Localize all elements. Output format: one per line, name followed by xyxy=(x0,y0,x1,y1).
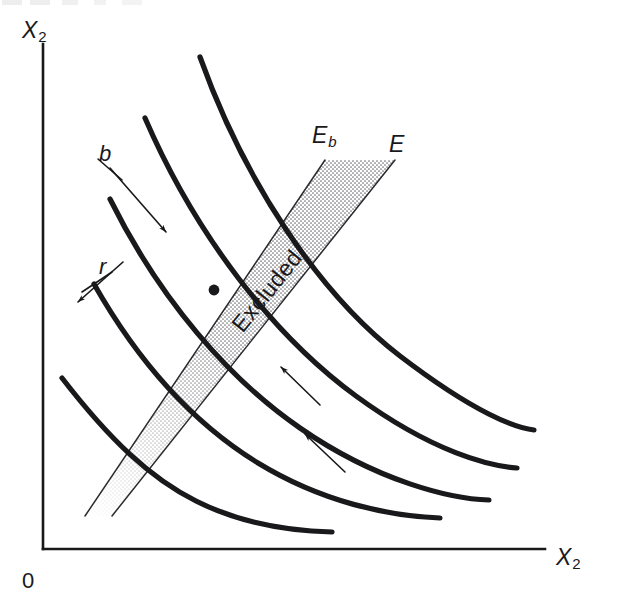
tangency-point-dot xyxy=(209,285,220,296)
x-axis-label-text: X xyxy=(556,544,571,570)
ray-E-label: E xyxy=(389,133,404,156)
ray-Eb-label-subscript: b xyxy=(327,133,336,150)
curve-shift-label-r: r xyxy=(99,256,106,278)
indifference-curve-5 xyxy=(200,57,534,430)
origin-label: 0 xyxy=(22,570,34,592)
y-axis-label-text: X xyxy=(22,17,37,43)
x-axis-label: X2 xyxy=(556,546,581,571)
y-axis-label: X2 xyxy=(22,19,47,44)
excluded-shaded-band xyxy=(85,160,395,516)
y-axis-label-subscript: 2 xyxy=(37,28,46,45)
arrow-b-lower xyxy=(281,367,320,405)
ray-Eb-label: Eb xyxy=(312,124,337,149)
x-axis-label-subscript: 2 xyxy=(571,555,580,572)
diagram-svg xyxy=(0,0,639,605)
tangency-marker xyxy=(209,285,220,296)
curve-shift-label-b: b xyxy=(99,143,111,165)
figure-canvas: X2 X2 0 b r Eb E Excluded xyxy=(0,0,639,605)
ray-Eb-label-text: E xyxy=(312,122,327,148)
